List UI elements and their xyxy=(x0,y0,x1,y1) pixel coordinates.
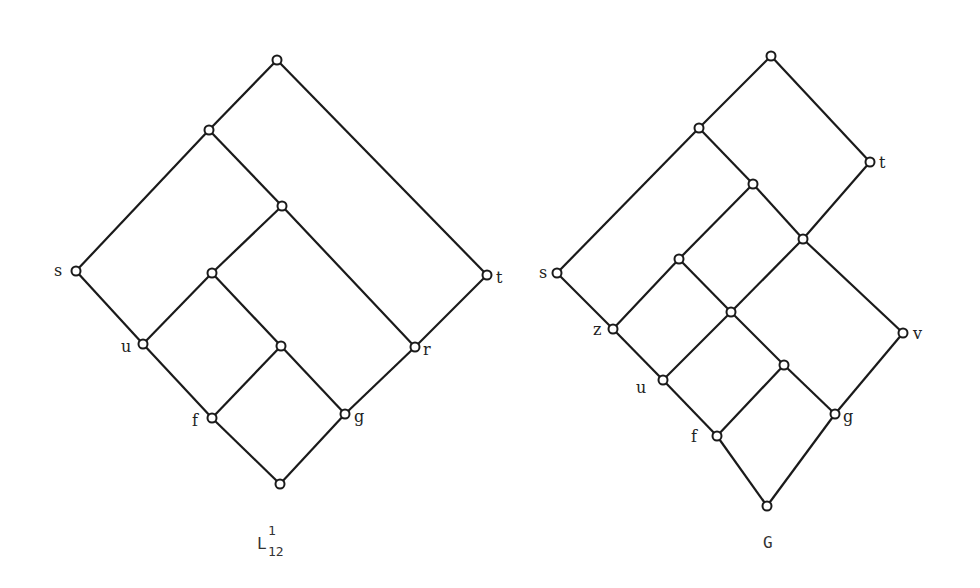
node-label-g: g xyxy=(354,407,364,426)
node-c xyxy=(799,235,808,244)
edge-t-r xyxy=(415,275,487,347)
lattice-l12-diagram: sturfg xyxy=(54,56,503,489)
edge-d-z xyxy=(613,259,679,329)
node-g xyxy=(341,410,350,419)
node-u xyxy=(139,340,148,349)
edge-d-e xyxy=(679,259,731,312)
edge-a-b xyxy=(699,128,753,184)
node-top xyxy=(767,52,776,61)
node-c xyxy=(208,269,217,278)
edge-t-c xyxy=(803,162,870,239)
edge-b-c xyxy=(212,206,282,273)
node-label-z: z xyxy=(593,320,601,339)
caption-g-main: G xyxy=(763,533,773,552)
edge-u-f xyxy=(663,380,717,436)
node-label-t: t xyxy=(879,153,886,172)
node-label-f: f xyxy=(691,427,698,446)
edge-u-f xyxy=(143,344,212,418)
caption-l12-sub: 12 xyxy=(268,544,284,559)
edge-h-f xyxy=(717,365,784,436)
edge-r-g xyxy=(345,347,415,414)
node-label-v: v xyxy=(912,324,922,343)
edge-top-t xyxy=(277,60,487,275)
node-e xyxy=(727,308,736,317)
node-s xyxy=(72,267,81,276)
node-u xyxy=(659,376,668,385)
edge-d-g xyxy=(281,346,345,414)
node-b xyxy=(278,202,287,211)
caption-l12: L 1 12 xyxy=(257,523,284,559)
edge-c-e xyxy=(731,239,803,312)
edge-c-u xyxy=(143,273,212,344)
edge-top-a xyxy=(699,56,771,128)
node-v xyxy=(899,329,908,338)
node-a xyxy=(205,126,214,135)
edge-top-t xyxy=(771,56,870,162)
node-z xyxy=(609,325,618,334)
edge-e-u xyxy=(663,312,731,380)
node-top xyxy=(273,56,282,65)
node-label-u: u xyxy=(636,378,646,397)
edge-z-u xyxy=(613,329,663,380)
edge-v-g xyxy=(835,333,903,414)
caption-g: G xyxy=(763,533,773,552)
edge-c-v xyxy=(803,239,903,333)
edge-f-bot xyxy=(212,418,280,484)
edge-a-b xyxy=(209,130,282,206)
edge-b-r xyxy=(282,206,415,347)
node-r xyxy=(411,343,420,352)
edge-s-z xyxy=(557,273,613,329)
node-d xyxy=(277,342,286,351)
node-bot xyxy=(763,502,772,511)
edge-c-d xyxy=(212,273,281,346)
lattice-g-diagram: stzvufg xyxy=(539,52,922,511)
node-a xyxy=(695,124,704,133)
node-bot xyxy=(276,480,285,489)
caption-l12-main: L xyxy=(257,534,267,553)
node-b xyxy=(749,180,758,189)
edge-top-a xyxy=(209,60,277,130)
edge-g-bot xyxy=(767,414,835,506)
node-label-r: r xyxy=(423,340,431,359)
node-f xyxy=(713,432,722,441)
node-label-f: f xyxy=(192,411,199,430)
node-label-g: g xyxy=(843,407,853,426)
edge-s-u xyxy=(76,271,143,344)
edge-a-s xyxy=(76,130,209,271)
lattice-diagrams: sturfg stzvufg L 1 12 G xyxy=(0,0,980,588)
edge-a-s xyxy=(557,128,699,273)
node-label-s: s xyxy=(539,263,547,282)
node-t xyxy=(483,271,492,280)
edge-e-h xyxy=(731,312,784,365)
edge-b-d xyxy=(679,184,753,259)
edge-b-c xyxy=(753,184,803,239)
node-label-s: s xyxy=(54,261,62,280)
node-label-t: t xyxy=(496,268,503,287)
edge-d-f xyxy=(212,346,281,418)
edge-g-bot xyxy=(280,414,345,484)
node-g xyxy=(831,410,840,419)
node-s xyxy=(553,269,562,278)
edge-f-bot xyxy=(717,436,767,506)
node-f xyxy=(208,414,217,423)
node-d xyxy=(675,255,684,264)
node-h xyxy=(780,361,789,370)
node-label-u: u xyxy=(121,337,131,356)
caption-l12-sup: 1 xyxy=(268,523,276,538)
node-t xyxy=(866,158,875,167)
edge-h-g xyxy=(784,365,835,414)
